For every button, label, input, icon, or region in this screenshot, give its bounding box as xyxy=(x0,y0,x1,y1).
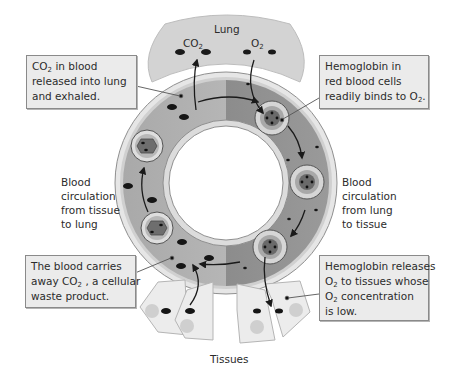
callout-co2-exhaled: CO2 in blood released into lung and exha… xyxy=(26,55,137,109)
co2-lung-label: CO2 xyxy=(183,36,203,50)
lung-label: Lung xyxy=(214,22,240,36)
rbc-deoxygenated-2 xyxy=(141,212,173,244)
tissues-label: Tissues xyxy=(210,352,249,366)
callout-co2-waste: The blood carries away CO2 , a cellular … xyxy=(25,255,136,308)
callout-hemoglobin-releases: Hemoglobin releases O2 to tissues whose … xyxy=(319,255,429,321)
rbc-oxygenated-2 xyxy=(290,165,324,199)
callout-hemoglobin-binds: Hemoglobin in red blood cells readily bi… xyxy=(319,55,429,109)
right-flow-label: Blood circulation from lung to tissue xyxy=(342,175,397,231)
rbc-deoxygenated-1 xyxy=(131,130,163,162)
rbc-oxygenated-3 xyxy=(253,230,287,264)
o2-lung-label: O2 xyxy=(251,36,264,50)
left-flow-label: Blood circulation from tissue to lung xyxy=(61,175,120,231)
